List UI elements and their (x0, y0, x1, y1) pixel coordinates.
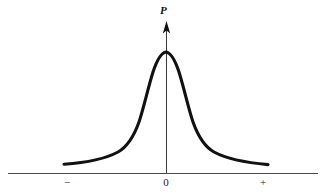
plot-canvas (0, 0, 331, 196)
y-axis-title: P (160, 5, 167, 16)
x-tick-label-negative: − (57, 177, 77, 188)
x-tick-label-zero: 0 (156, 177, 176, 188)
figure-container: P − 0 + (0, 0, 331, 196)
x-tick-label-positive: + (253, 177, 273, 188)
